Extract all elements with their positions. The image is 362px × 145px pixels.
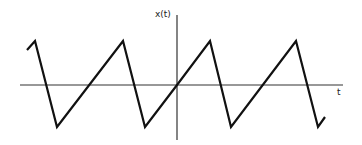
y-axis-label: x(t) [155, 9, 171, 19]
sawtooth-plot: x(t) t [0, 0, 362, 145]
x-axis-label: t [337, 87, 341, 97]
sawtooth-waveform [27, 41, 325, 127]
